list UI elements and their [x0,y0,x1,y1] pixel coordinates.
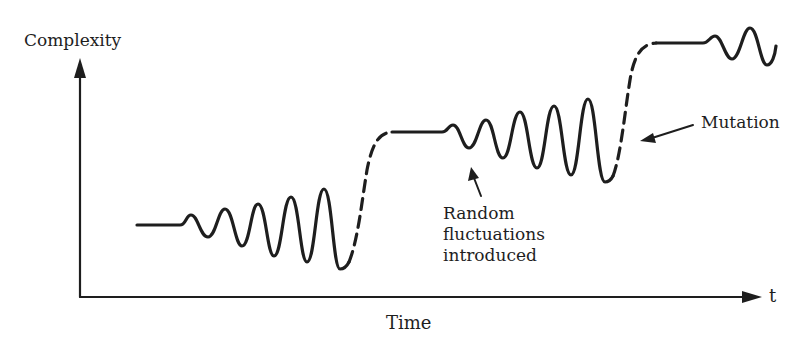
x-axis [80,291,762,303]
oscillation-segment-1 [137,189,349,269]
mutation-annotation: Mutation [701,112,780,132]
mutation-jump-2 [613,43,656,176]
x-axis-end-label: t [769,286,776,306]
fluctuations-annotation: Random fluctuations introduced [443,203,583,266]
fluctuations-annotation-line-1: Random [443,203,583,224]
fluctuations-pointer-arrow [468,167,481,196]
mutation-jump-1 [349,132,392,262]
diagram-svg [0,0,810,342]
oscillation-segment-3 [656,28,776,65]
y-axis [74,58,86,297]
x-axis-label: Time [386,313,431,333]
fluctuations-annotation-line-3: introduced [443,245,583,266]
mutation-pointer-arrow [640,125,693,143]
x-axis-arrowhead-icon [742,291,762,303]
fluctuations-annotation-line-2: fluctuations [443,224,583,245]
y-axis-arrowhead-icon [74,58,86,78]
y-axis-label: Complexity [24,30,121,50]
arrowhead-icon [640,133,656,143]
arrowhead-icon [468,167,479,181]
oscillation-segment-2 [392,99,613,182]
diagram-canvas: Complexity Time t Random fluctuations in… [0,0,810,342]
